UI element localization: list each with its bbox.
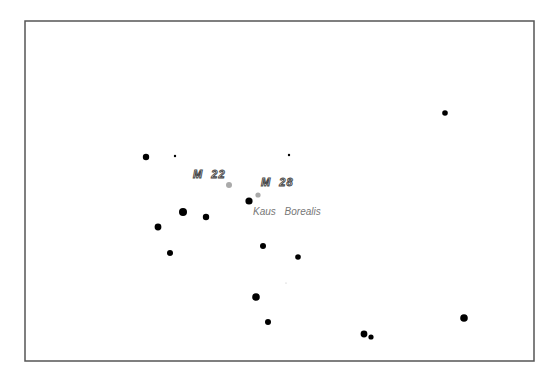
star-marker bbox=[260, 243, 266, 249]
star-marker bbox=[252, 293, 260, 301]
star-marker bbox=[285, 282, 286, 283]
star-chart: M 22M 28 Kaus Borealis bbox=[0, 0, 558, 376]
deep-sky-objects-layer: M 22M 28 bbox=[193, 168, 294, 198]
star-marker bbox=[368, 334, 373, 339]
star-marker bbox=[143, 154, 149, 160]
deep-sky-object-label: M 22 bbox=[193, 168, 226, 180]
stars-layer bbox=[143, 110, 468, 339]
star-marker bbox=[203, 214, 209, 220]
chart-frame bbox=[25, 21, 534, 361]
deep-sky-object-label: M 28 bbox=[261, 176, 294, 188]
star-marker bbox=[155, 224, 162, 231]
star-marker bbox=[167, 250, 173, 256]
star-marker bbox=[265, 319, 271, 325]
star-marker bbox=[288, 154, 290, 156]
star-marker bbox=[245, 197, 252, 204]
star-marker bbox=[295, 254, 301, 260]
deep-sky-object-marker bbox=[255, 192, 260, 197]
star-marker bbox=[442, 110, 448, 116]
labels-layer: Kaus Borealis bbox=[253, 206, 321, 217]
star-marker bbox=[361, 331, 368, 338]
star-marker bbox=[460, 314, 468, 322]
star-name-label: Kaus Borealis bbox=[253, 206, 321, 217]
deep-sky-object-marker bbox=[226, 182, 232, 188]
star-marker bbox=[174, 155, 176, 157]
star-marker bbox=[179, 208, 187, 216]
